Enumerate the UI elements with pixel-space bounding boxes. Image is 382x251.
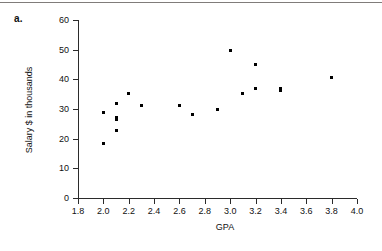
- y-tick-label: 60: [29, 16, 69, 25]
- y-tick-mark: [73, 139, 78, 140]
- scatter-point: [102, 142, 105, 145]
- y-tick-mark: [73, 50, 78, 51]
- scatter-point: [254, 63, 257, 66]
- x-tick-mark: [103, 199, 104, 204]
- x-tick-mark: [129, 199, 130, 204]
- x-axis-line: [78, 198, 357, 199]
- scatter-point: [216, 108, 219, 111]
- scatter-point: [140, 104, 143, 107]
- x-tick-mark: [332, 199, 333, 204]
- scatter-point: [115, 129, 118, 132]
- x-tick-mark: [256, 199, 257, 204]
- scatter-point: [330, 76, 333, 79]
- x-axis-title-text: GPA: [216, 222, 234, 232]
- x-tick-label: 4.0: [342, 207, 372, 216]
- figure-page: a. 0102030405060 1.82.02.22.42.62.83.03.…: [0, 0, 382, 251]
- y-tick-label: 10: [29, 164, 69, 173]
- y-tick-label: 40: [29, 75, 69, 84]
- x-axis-title: GPA: [0, 222, 382, 232]
- y-tick-mark: [73, 20, 78, 21]
- scatter-point: [229, 49, 232, 52]
- scatter-point: [102, 111, 105, 114]
- y-tick-label: 0: [29, 194, 69, 203]
- scatter-point: [178, 104, 181, 107]
- x-tick-mark: [179, 199, 180, 204]
- x-tick-mark: [78, 199, 79, 204]
- x-tick-mark: [357, 199, 358, 204]
- x-tick-mark: [230, 199, 231, 204]
- scatter-plot: 0102030405060 1.82.02.22.42.62.83.03.23.…: [0, 0, 382, 251]
- y-tick-label: 30: [29, 105, 69, 114]
- x-tick-mark: [205, 199, 206, 204]
- y-axis-line: [78, 20, 79, 199]
- scatter-point: [254, 87, 257, 90]
- scatter-point: [127, 92, 130, 95]
- scatter-point: [279, 89, 282, 92]
- scatter-point: [241, 92, 244, 95]
- x-tick-mark: [154, 199, 155, 204]
- y-axis-title: Salary $ in thousands: [24, 50, 34, 170]
- y-tick-label: 20: [29, 135, 69, 144]
- y-tick-mark: [73, 168, 78, 169]
- y-tick-label: 50: [29, 46, 69, 55]
- scatter-point: [115, 118, 118, 121]
- y-tick-mark: [73, 109, 78, 110]
- y-tick-mark: [73, 79, 78, 80]
- x-tick-mark: [306, 199, 307, 204]
- x-tick-mark: [281, 199, 282, 204]
- scatter-point: [191, 113, 194, 116]
- scatter-point: [115, 102, 118, 105]
